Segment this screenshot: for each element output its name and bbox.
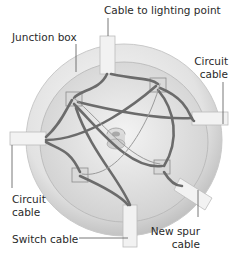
label-circuit-cable-right-line1: Circuit <box>194 55 228 68</box>
label-switch-cable: Switch cable <box>12 233 78 246</box>
label-new-spur-cable-line1: New spur <box>151 225 200 238</box>
label-circuit-cable-left-line1: Circuit <box>12 193 46 206</box>
lighting-point-cable-sheath <box>100 36 115 74</box>
label-junction-box: Junction box <box>12 31 77 44</box>
left-circuit-cable-sheath <box>10 132 46 145</box>
label-cable-to-lighting-point: Cable to lighting point <box>104 4 221 17</box>
switch-cable-sheath <box>123 205 137 247</box>
label-circuit-cable-left-line2: cable <box>12 206 40 219</box>
label-new-spur-cable-line2: cable <box>172 238 200 251</box>
label-circuit-cable-right-line2: cable <box>200 68 228 81</box>
